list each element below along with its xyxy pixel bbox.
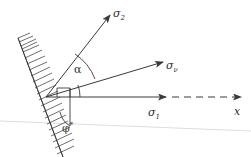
scan-artifact-line — [0, 121, 251, 131]
phi-superscript: * — [70, 121, 74, 129]
sigma-nu-subscript: ν — [174, 66, 178, 74]
sigma1-label: σ1 — [148, 107, 160, 121]
x-axis-label: x — [234, 106, 240, 117]
sigma2-subscript: 2 — [121, 14, 125, 22]
phi-symbol: φ — [62, 122, 70, 135]
alpha-angle-label: α — [74, 64, 81, 75]
figure-canvas — [0, 0, 251, 157]
sigma2-symbol: σ — [113, 7, 121, 20]
sigma-nu-label: σν — [166, 60, 178, 74]
sigma-nu-ray — [46, 62, 163, 97]
stress-direction-figure: σ2 σν σ1 x α φ* — [0, 0, 251, 157]
sigma-nu-symbol: σ — [166, 59, 174, 72]
sigma1-symbol: σ — [148, 106, 156, 119]
sigma1-subscript: 1 — [156, 113, 160, 121]
phi-star-angle-label: φ* — [62, 122, 73, 134]
right-angle-marker — [57, 88, 70, 97]
sigma2-label: σ2 — [113, 8, 125, 22]
hatched-boundary — [12, 33, 74, 157]
